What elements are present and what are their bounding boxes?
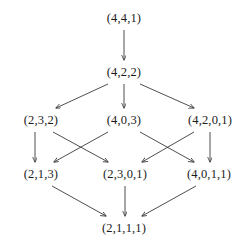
node-label-n0: (4,4,1): [107, 12, 141, 25]
node-label-n7: (4,0,1,1): [187, 168, 231, 181]
node-label-n8: (2,1,1,1): [102, 222, 146, 235]
node-label-n1: (4,2,2): [107, 66, 141, 79]
node-label-n2: (2,3,2): [24, 114, 58, 127]
node-label-n3: (4,0,3): [107, 114, 141, 127]
edge-n5-to-n8: [52, 186, 106, 216]
node-label-n4: (4,2,0,1): [188, 114, 232, 127]
edge-n1-to-n2: [56, 84, 108, 108]
node-label-n6: (2,3,0,1): [103, 168, 147, 181]
diagram-canvas: (4,4,1)(4,2,2)(2,3,2)(4,0,3)(4,2,0,1)(2,…: [0, 0, 247, 242]
edge-n7-to-n8: [142, 186, 196, 216]
node-label-n5: (2,1,3): [24, 168, 58, 181]
edge-n1-to-n4: [140, 84, 194, 108]
